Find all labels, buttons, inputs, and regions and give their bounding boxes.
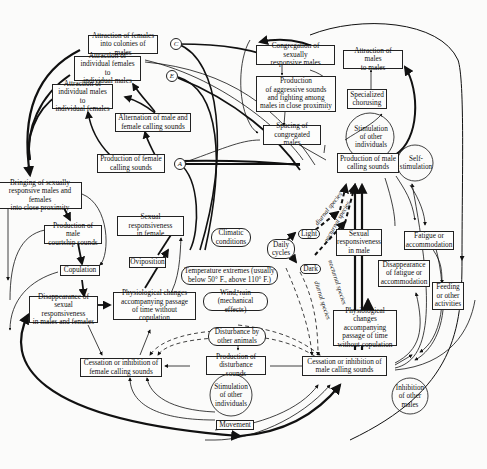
node-sexual-responsiveness-male: Sexual responsiveness in male	[336, 229, 382, 256]
node-disappearance-fatigue: Disappearance of fatigue or accommodatio…	[378, 260, 430, 287]
node-cessation-male: Cessation or inhibition of male calling …	[302, 356, 387, 376]
node-alternation-calling: Alternation of male and female calling s…	[115, 113, 191, 132]
node-feeding-activities: Feeding or other activities	[432, 282, 464, 310]
node-disturbance-animals: Disturbance by other animals	[208, 327, 266, 346]
node-production-male-calling: Production of male calling sounds	[337, 153, 399, 173]
node-daily-cycles: Daily cycles	[267, 239, 295, 259]
label-stimulation-other-bottom: Stimulation of other individuals	[212, 382, 250, 409]
node-disappearance-responsiveness: Disappearance of sexual responsiveness i…	[29, 296, 98, 323]
node-production-disturbance: Production of disturbance sounds	[206, 356, 266, 375]
node-specialized-chorusing: Specialized chorusing	[347, 89, 387, 109]
node-congregation-males: Congregation of sexually responsive male…	[256, 45, 335, 65]
node-light: Light	[298, 229, 320, 239]
connector-e: E	[166, 70, 178, 82]
label-inhibition-other-males: Inhibition of other males	[392, 383, 428, 410]
node-attraction-males-to-males: Attraction of males to males	[343, 50, 403, 69]
node-spacing-males: Spacing of congregated males	[263, 125, 321, 145]
node-copulation: Copulation	[60, 265, 100, 276]
node-temperature-extremes: Temperature extremes (usually below 50° …	[181, 266, 278, 285]
connector-a: A	[174, 158, 186, 170]
node-production-female-calling: Production of female calling sounds	[97, 154, 165, 173]
node-movement: Movement	[216, 420, 254, 430]
node-oviposition: Oviposition	[129, 257, 166, 268]
node-attraction-individual-males: Attraction of individual males to indivi…	[52, 84, 113, 109]
connector-c: C	[170, 38, 182, 50]
node-physiological-female: Physiological changes accompanying passa…	[113, 292, 196, 320]
label-stimulation-other-top: Stimulation of other individuals	[350, 123, 392, 151]
node-aggressive-sounds: Production of aggressive sounds and figh…	[256, 76, 336, 112]
label-self-stimulation: Self- stimulation	[398, 154, 434, 172]
node-dark: Dark	[300, 264, 321, 274]
node-physiological-male: Physiological changes accompanying passa…	[333, 310, 397, 346]
node-sexual-responsiveness-female: Sexual responsiveness in female	[117, 216, 184, 236]
node-wind-rain: Wind, rain (mechanical effects)	[203, 292, 268, 311]
node-male-courtship: Production of male courtship sounds	[44, 225, 102, 244]
node-fatigue-accommodation: Fatigue or accommodation	[404, 231, 454, 250]
node-cessation-female: Cessation or inhibition of female callin…	[80, 358, 162, 377]
node-attraction-individual-females: Attraction of individual females to indi…	[74, 56, 141, 81]
node-climatic-conditions: Climatic conditions	[211, 228, 251, 247]
node-bringing-proximity: Bringing of sexually responsive males an…	[0, 182, 82, 209]
